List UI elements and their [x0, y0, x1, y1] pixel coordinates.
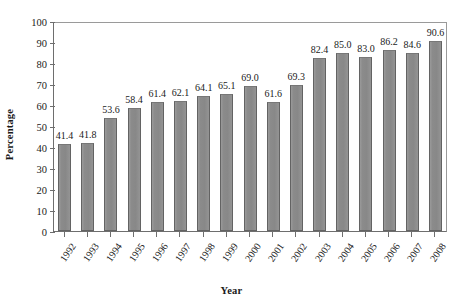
- bar-value-label: 69.3: [288, 71, 306, 83]
- plot-area: 0102030405060708090100 41.441.853.658.46…: [53, 22, 447, 232]
- y-tick-label: 100: [31, 16, 47, 29]
- bar: [313, 58, 326, 231]
- bar-value-label: 69.0: [241, 72, 259, 84]
- bar-group: 64.1: [197, 21, 210, 231]
- x-tick-mark: [226, 232, 227, 237]
- bar-group: 58.4: [128, 21, 141, 231]
- bar-value-label: 53.6: [102, 104, 120, 116]
- bar: [406, 53, 419, 231]
- y-tick-label: 90: [37, 37, 48, 50]
- bar-group: 85.0: [336, 21, 349, 231]
- x-tick-mark: [133, 232, 134, 237]
- bar-group: 61.6: [267, 21, 280, 231]
- x-axis-tick-label: 2007: [405, 241, 425, 264]
- x-tick-mark: [87, 232, 88, 237]
- x-tick-mark: [365, 232, 366, 237]
- x-axis-tick-label: 2003: [312, 241, 332, 264]
- y-axis-title-text: Percentage: [5, 108, 16, 159]
- x-axis-tick-label: 2000: [243, 241, 263, 264]
- bar-group: 90.6: [429, 21, 442, 231]
- bar-value-label: 41.4: [56, 130, 74, 142]
- x-tick-mark: [179, 232, 180, 237]
- x-axis-tick-label: 2001: [266, 241, 286, 264]
- x-tick-mark: [272, 232, 273, 237]
- x-axis-tick-label: 2002: [289, 241, 309, 264]
- bar: [429, 41, 442, 231]
- bar-group: 82.4: [313, 21, 326, 231]
- bar-value-label: 86.2: [380, 36, 398, 48]
- bar: [359, 57, 372, 231]
- bar: [267, 102, 280, 231]
- x-tick-mark: [411, 232, 412, 237]
- x-tick-mark: [64, 232, 65, 237]
- bar-group: 83.0: [359, 21, 372, 231]
- bar-value-label: 61.4: [149, 88, 167, 100]
- x-axis-tick-label: 2005: [358, 241, 378, 264]
- bar-group: 84.6: [406, 21, 419, 231]
- x-axis-title-text: Year: [221, 285, 243, 296]
- bar-value-label: 62.1: [172, 87, 190, 99]
- bar: [81, 143, 94, 231]
- bar-value-label: 58.4: [125, 94, 143, 106]
- bar-group: 65.1: [220, 21, 233, 231]
- x-tick-mark: [295, 232, 296, 237]
- y-tick-label: 0: [42, 226, 47, 239]
- x-tick-mark: [156, 232, 157, 237]
- bar: [151, 102, 164, 231]
- x-axis-tick-label: 1997: [173, 241, 193, 264]
- bar-value-label: 61.6: [264, 88, 282, 100]
- bar-group: 86.2: [383, 21, 396, 231]
- bar-group: 69.3: [290, 21, 303, 231]
- x-axis-title: Year: [0, 285, 463, 296]
- bar-group: 41.4: [58, 21, 71, 231]
- y-tick-mark: [50, 232, 55, 233]
- x-axis-tick-label: 1998: [196, 241, 216, 264]
- bar: [58, 144, 71, 231]
- x-axis-tick-label: 1999: [219, 241, 239, 264]
- bar-value-label: 65.1: [218, 80, 236, 92]
- bar-group: 62.1: [174, 21, 187, 231]
- y-tick-label: 70: [37, 79, 48, 92]
- y-tick-label: 40: [37, 142, 48, 155]
- bar: [244, 86, 257, 231]
- x-tick-mark: [110, 232, 111, 237]
- bar: [128, 108, 141, 231]
- bars-layer: 41.441.853.658.461.462.164.165.169.061.6…: [54, 23, 446, 231]
- bar-group: 61.4: [151, 21, 164, 231]
- y-tick-label: 20: [37, 184, 48, 197]
- x-axis-tick-label: 2008: [428, 241, 448, 264]
- y-tick-label: 50: [37, 121, 48, 134]
- bar-value-label: 82.4: [311, 44, 329, 56]
- bar-chart-figure: Percentage 0102030405060708090100 41.441…: [0, 0, 463, 307]
- bar: [197, 96, 210, 231]
- x-axis-tick-label: 2004: [335, 241, 355, 264]
- x-tick-mark: [388, 232, 389, 237]
- x-axis-tick-label: 1996: [150, 241, 170, 264]
- bar: [383, 50, 396, 231]
- bar-value-label: 64.1: [195, 82, 213, 94]
- x-tick-mark: [203, 232, 204, 237]
- y-tick-label: 30: [37, 163, 48, 176]
- y-tick-label: 80: [37, 58, 48, 71]
- bar-value-label: 41.8: [79, 129, 97, 141]
- x-axis-tick-label: 1994: [103, 241, 123, 264]
- bar-group: 53.6: [104, 21, 117, 231]
- bar: [336, 53, 349, 232]
- bar-value-label: 84.6: [403, 39, 421, 51]
- bar-value-label: 90.6: [427, 27, 445, 39]
- bar: [104, 118, 117, 231]
- bar: [220, 94, 233, 231]
- x-axis-tick-label: 1992: [57, 241, 77, 264]
- bar: [174, 101, 187, 231]
- x-axis-tick-label: 2006: [382, 241, 402, 264]
- bar-value-label: 85.0: [334, 39, 352, 51]
- y-tick-label: 60: [37, 100, 48, 113]
- bar-group: 69.0: [244, 21, 257, 231]
- x-tick-mark: [434, 232, 435, 237]
- x-tick-mark: [319, 232, 320, 237]
- bar-value-label: 83.0: [357, 43, 375, 55]
- x-axis-tick-label: 1995: [127, 241, 147, 264]
- x-tick-mark: [342, 232, 343, 237]
- bar: [290, 85, 303, 231]
- x-tick-mark: [249, 232, 250, 237]
